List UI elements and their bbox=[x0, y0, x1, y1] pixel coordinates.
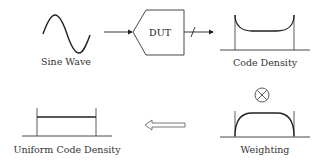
weighting-curve-icon bbox=[235, 113, 294, 136]
diagram-canvas: Sine Wave DUT Code Density Weighting bbox=[0, 0, 325, 162]
weighting-label: Weighting bbox=[241, 144, 290, 155]
dut-block: DUT bbox=[133, 10, 184, 55]
hollow-left-arrow-icon bbox=[145, 120, 185, 130]
sine-wave-node: Sine Wave bbox=[41, 15, 91, 67]
uniform-label: Uniform Code Density bbox=[13, 144, 121, 155]
code-density-label: Code Density bbox=[233, 57, 298, 68]
dut-label: DUT bbox=[149, 27, 172, 38]
code-density-node: Code Density bbox=[220, 15, 310, 68]
sine-wave-icon bbox=[43, 15, 90, 53]
code-density-curve-icon bbox=[235, 15, 294, 31]
output-bus-arrow bbox=[184, 27, 213, 37]
sine-wave-label: Sine Wave bbox=[41, 56, 91, 67]
multiply-operator bbox=[255, 88, 269, 102]
weighting-node: Weighting bbox=[220, 111, 310, 155]
uniform-node: Uniform Code Density bbox=[13, 108, 121, 155]
